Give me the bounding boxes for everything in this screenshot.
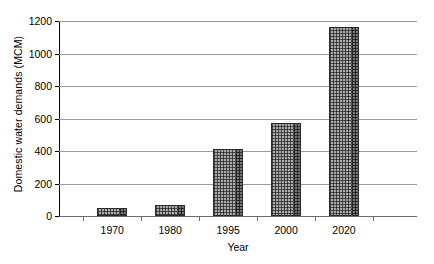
- x-axis-tick-label: 1970: [82, 224, 142, 236]
- x-axis-tick: [199, 217, 200, 221]
- bar[interactable]: [329, 27, 359, 216]
- plot-area: [59, 21, 417, 216]
- x-axis-tick-label: 2020: [314, 224, 374, 236]
- y-axis-tick-label: 400: [10, 146, 52, 156]
- bar-group: [141, 21, 199, 216]
- bar-shaded-edge: [119, 209, 126, 215]
- bar-shaded-edge: [293, 124, 300, 215]
- y-axis-tick-label: 600: [10, 114, 52, 124]
- x-axis-tick-label: 1995: [198, 224, 258, 236]
- x-axis-tick: [315, 217, 316, 221]
- x-axis-tick-label: 1980: [140, 224, 200, 236]
- x-axis-tick-label: 2000: [256, 224, 316, 236]
- y-axis-tick-label: 800: [10, 81, 52, 91]
- bar-group: [199, 21, 257, 216]
- bar[interactable]: [155, 205, 185, 216]
- bar-shaded-edge: [351, 28, 358, 215]
- bar[interactable]: [213, 149, 243, 216]
- bar-chart: Domestic water demands (MCM) 02004006008…: [0, 0, 434, 264]
- x-axis-tick: [257, 217, 258, 221]
- x-axis-tick: [83, 217, 84, 221]
- y-axis-tick-label: 0: [10, 211, 52, 221]
- bar-shaded-edge: [177, 206, 184, 215]
- bar-group: [315, 21, 373, 216]
- x-axis-line: [59, 216, 417, 217]
- bar-shaded-edge: [235, 150, 242, 215]
- y-axis-tick-label: 200: [10, 179, 52, 189]
- bar[interactable]: [97, 208, 127, 216]
- bar-group: [83, 21, 141, 216]
- bar[interactable]: [271, 123, 301, 216]
- y-axis-tick-label: 1000: [10, 49, 52, 59]
- x-axis-tick: [373, 217, 374, 221]
- y-axis-tick-label: 1200: [10, 16, 52, 26]
- x-axis-title: Year: [59, 241, 417, 253]
- bar-group: [257, 21, 315, 216]
- x-axis-tick: [141, 217, 142, 221]
- plot-inner: [59, 21, 417, 216]
